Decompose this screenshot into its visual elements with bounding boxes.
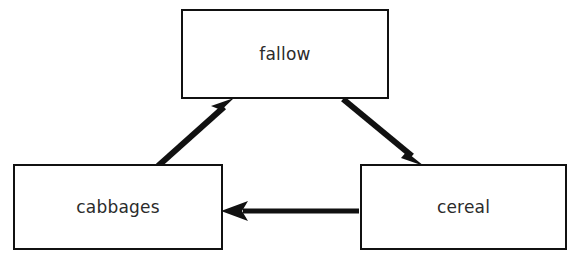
node-fallow[interactable]: fallow xyxy=(181,9,389,99)
node-fallow-label: fallow xyxy=(259,46,310,63)
arrow-cabbages-to-fallow xyxy=(158,98,234,166)
node-cereal-label: cereal xyxy=(437,199,490,216)
arrow-shaft xyxy=(158,107,224,166)
crop-rotation-diagram: fallow cabbages cereal xyxy=(0,0,577,265)
node-cabbages[interactable]: cabbages xyxy=(13,164,223,250)
node-cereal[interactable]: cereal xyxy=(360,164,567,250)
arrow-head xyxy=(399,146,424,166)
arrow-fallow-to-cereal xyxy=(343,99,424,166)
node-cabbages-label: cabbages xyxy=(76,199,159,216)
arrow-cereal-to-cabbages xyxy=(221,201,359,221)
